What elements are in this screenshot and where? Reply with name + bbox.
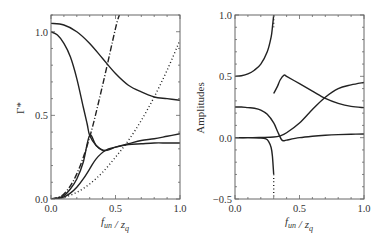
left-x-axis-label: fun / zq bbox=[101, 215, 129, 233]
x-tick-label: 1.0 bbox=[357, 203, 370, 214]
series-rising-solid-b bbox=[51, 143, 180, 199]
y-tick-label: 1.0 bbox=[219, 10, 232, 21]
series-falling-solid bbox=[51, 32, 105, 151]
series-rising-curve bbox=[235, 82, 364, 137]
x-tick-label: 0.5 bbox=[109, 203, 122, 214]
y-tick-label: 0.5 bbox=[35, 110, 48, 121]
y-tick-label: −0.5 bbox=[213, 194, 232, 205]
right-series-group bbox=[235, 15, 364, 199]
left-series-group bbox=[51, 15, 180, 199]
right-panel: 0.00.51.0−0.50.00.51.0 Amplitudes fun / … bbox=[194, 10, 371, 233]
right-ticks: 0.00.51.0−0.50.00.51.0 bbox=[213, 10, 371, 214]
y-tick-label: 0.0 bbox=[219, 133, 232, 144]
left-y-axis-label: Γ* bbox=[14, 102, 26, 114]
figure: 0.00.51.00.00.51.0 Γ* fun / zq 0.00.51.0… bbox=[0, 0, 385, 242]
series-upper-solid bbox=[51, 23, 180, 100]
series-lower-diverging bbox=[235, 138, 274, 175]
right-y-axis-label: Amplitudes bbox=[194, 82, 206, 133]
right-x-axis-label: fun / zq bbox=[285, 215, 313, 233]
series-upper-diverging bbox=[235, 15, 274, 76]
series-dotted bbox=[51, 40, 180, 199]
x-tick-label: 1.0 bbox=[173, 203, 186, 214]
x-tick-label: 0.5 bbox=[293, 203, 306, 214]
y-tick-label: 1.0 bbox=[35, 27, 48, 38]
left-axes-frame bbox=[51, 15, 180, 199]
right-axes-frame bbox=[235, 15, 364, 199]
left-panel: 0.00.51.00.00.51.0 Γ* fun / zq bbox=[14, 15, 187, 233]
y-tick-label: 0.5 bbox=[219, 71, 232, 82]
series-dash-dot bbox=[51, 15, 119, 199]
left-ticks: 0.00.51.00.00.51.0 bbox=[35, 15, 187, 214]
y-tick-label: 0.0 bbox=[35, 194, 48, 205]
